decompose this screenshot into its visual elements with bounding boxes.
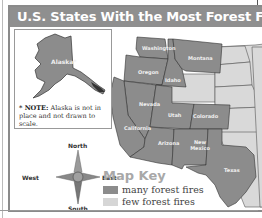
label-new-mexico: New Mexico	[190, 139, 210, 151]
label-nevada: Nevada	[139, 101, 160, 107]
alaska-shape	[15, 30, 111, 102]
label-idaho: Idaho	[165, 77, 181, 83]
alaska-note: * NOTE: Alaska is not in place and not d…	[19, 104, 111, 128]
label-alaska: Alaska*	[51, 58, 77, 65]
swatch-many-icon	[103, 186, 118, 194]
map-key-title: Map Key	[103, 168, 166, 183]
alaska-inset: Alaska* * NOTE: Alaska is not in place a…	[14, 29, 112, 129]
swatch-few-icon	[103, 198, 118, 206]
label-california: California	[124, 125, 151, 131]
key-item-few: few forest fires	[103, 196, 195, 207]
key-item-many: many forest fires	[103, 184, 204, 195]
compass-north: North	[68, 142, 87, 149]
key-label-few: few forest fires	[122, 196, 195, 207]
label-oregon: Oregon	[138, 69, 159, 75]
label-texas: Texas	[224, 167, 240, 173]
note-bold: * NOTE:	[19, 104, 48, 112]
compass-west: West	[22, 174, 39, 181]
label-utah: Utah	[168, 112, 181, 118]
key-label-many: many forest fires	[122, 184, 204, 195]
label-montana: Montana	[188, 55, 213, 61]
label-washington: Washington	[142, 45, 175, 51]
page-edge-line	[2, 0, 3, 218]
label-colorado: Colorado	[193, 113, 218, 119]
map-frame: U.S. States With the Most Forest Fires	[8, 5, 262, 212]
bottom-rule	[0, 210, 258, 211]
label-arizona: Arizona	[158, 140, 179, 146]
